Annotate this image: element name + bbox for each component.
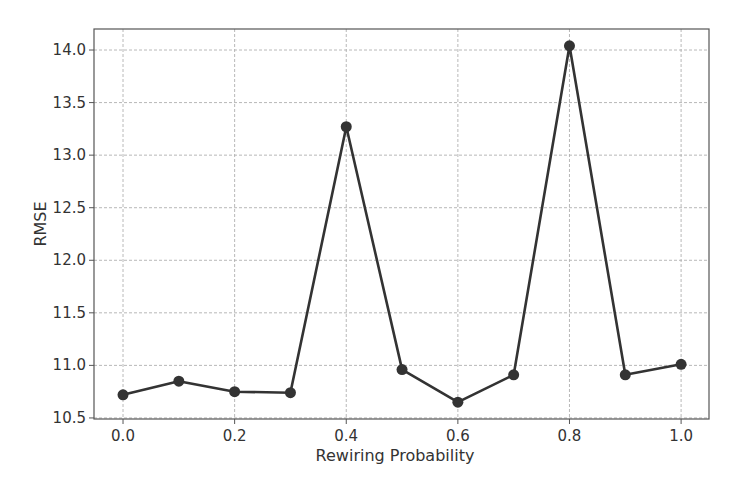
data-point-marker xyxy=(620,369,631,380)
data-point-marker xyxy=(118,389,129,400)
y-axis-ticks: 10.511.011.512.012.513.013.514.0 xyxy=(53,41,94,427)
x-tick-label: 0.8 xyxy=(558,427,582,445)
y-tick-label: 12.0 xyxy=(53,251,86,269)
data-series xyxy=(118,40,687,407)
y-tick-label: 10.5 xyxy=(53,409,86,427)
data-point-marker xyxy=(229,386,240,397)
series-line xyxy=(123,46,681,402)
data-point-marker xyxy=(397,364,408,375)
x-axis-label: Rewiring Probability xyxy=(316,446,475,465)
x-axis-ticks: 0.00.20.40.60.81.0 xyxy=(111,419,693,445)
grid-lines xyxy=(94,29,709,419)
x-tick-label: 0.0 xyxy=(111,427,135,445)
y-tick-label: 13.0 xyxy=(53,146,86,164)
data-point-marker xyxy=(508,369,519,380)
data-point-marker xyxy=(173,376,184,387)
y-tick-label: 13.5 xyxy=(53,94,86,112)
y-tick-label: 11.5 xyxy=(53,304,86,322)
data-point-marker xyxy=(676,359,687,370)
y-axis-label: RMSE xyxy=(31,201,50,246)
data-point-marker xyxy=(285,387,296,398)
data-point-marker xyxy=(564,40,575,51)
x-tick-label: 0.2 xyxy=(223,427,247,445)
x-tick-label: 0.4 xyxy=(334,427,358,445)
data-point-marker xyxy=(452,397,463,408)
data-point-marker xyxy=(341,121,352,132)
y-tick-label: 11.0 xyxy=(53,356,86,374)
line-chart: 10.511.011.512.012.513.013.514.0 0.00.20… xyxy=(0,0,739,488)
x-tick-label: 1.0 xyxy=(669,427,693,445)
y-tick-label: 14.0 xyxy=(53,41,86,59)
y-tick-label: 12.5 xyxy=(53,199,86,217)
plot-frame xyxy=(94,29,709,419)
x-tick-label: 0.6 xyxy=(446,427,470,445)
